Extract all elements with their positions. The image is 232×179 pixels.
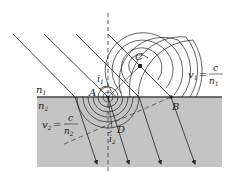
svg-text:c: c bbox=[213, 63, 218, 73]
label-c: C bbox=[135, 51, 143, 62]
svg-text:n1: n1 bbox=[209, 76, 219, 87]
label-n1: n1 bbox=[36, 84, 46, 96]
label-a: A bbox=[88, 87, 96, 98]
wavelets-upper bbox=[105, 33, 202, 97]
point-a bbox=[106, 95, 109, 98]
diagram-svg: n1 n2 A B C D i1 i2 v1 = c n1 v2 = c n2 bbox=[0, 0, 232, 179]
point-b bbox=[169, 95, 173, 99]
label-b: B bbox=[171, 101, 179, 112]
label-d: D bbox=[116, 124, 125, 135]
refraction-diagram: n1 n2 A B C D i1 i2 v1 = c n1 v2 = c n2 bbox=[0, 0, 232, 179]
point-c bbox=[138, 64, 142, 68]
svg-text:c: c bbox=[68, 113, 73, 123]
svg-text:=: = bbox=[53, 119, 61, 130]
formula-v1: v1 = c n1 bbox=[188, 63, 223, 87]
svg-text:=: = bbox=[199, 69, 207, 80]
svg-text:v1: v1 bbox=[188, 69, 197, 81]
label-i1: i1 bbox=[97, 74, 104, 85]
